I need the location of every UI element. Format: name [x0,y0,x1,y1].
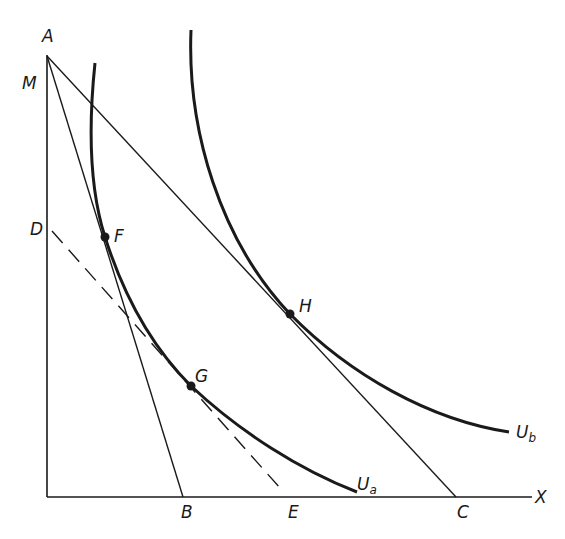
label-h: H [299,296,312,316]
label-a: A [41,26,54,46]
budget-line-AC [47,56,456,497]
label-ub: Ub [516,422,536,445]
label-g: G [195,366,208,386]
label-m: M [22,73,37,93]
indifference-curve-ua [91,63,357,492]
indifference-curve-ub [191,30,509,432]
label-ua: Ua [357,474,377,497]
label-c: C [457,502,469,522]
label-b: B [181,502,193,522]
diagram-canvas: A M D F G H B E C X Ua Ub [0,0,565,539]
label-d: D [30,219,43,239]
point-f [101,233,110,242]
budget-line-AB [47,56,183,497]
label-f: F [114,226,124,246]
point-h [286,310,295,319]
label-e: E [288,502,299,522]
label-x-axis: X [534,487,547,507]
